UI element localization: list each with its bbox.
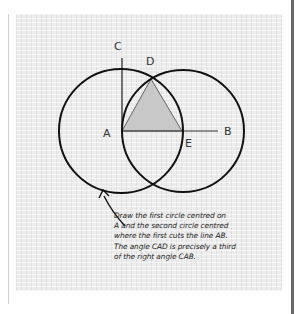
caption-line: where the first cuts the line AB.	[114, 231, 284, 241]
label-A: A	[103, 127, 111, 140]
geometry-diagram: C D A E B	[0, 0, 296, 314]
caption-line: of the right angle CAB.	[114, 252, 284, 262]
label-E: E	[185, 137, 192, 150]
label-B: B	[224, 125, 232, 138]
caption-line: A and the second circle centred	[114, 221, 284, 231]
shaded-triangle-ADE	[122, 79, 182, 131]
label-C: C	[114, 40, 122, 53]
caption: Draw the first circle centred on A and t…	[114, 211, 284, 262]
caption-line: The angle CAD is precisely a third	[114, 242, 284, 252]
caption-line: Draw the first circle centred on	[114, 211, 284, 221]
label-D: D	[146, 55, 154, 68]
